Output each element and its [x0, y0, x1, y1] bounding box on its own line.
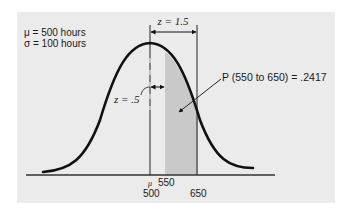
probability-label: P (550 to 650) = .2417	[222, 71, 327, 83]
normal-distribution-figure: z = 1.5 z = .5 P (550 to 650) = .2417 μ …	[0, 0, 347, 221]
sigma-parameter: σ = 100 hours	[24, 38, 86, 49]
mu-parameter: μ = 500 hours	[24, 27, 86, 38]
z-lower-label: z = .5	[113, 93, 140, 105]
tick-550: 550	[158, 177, 175, 188]
tick-500: 500	[143, 188, 160, 199]
tick-650: 650	[190, 188, 207, 199]
z-upper-label: z = 1.5	[157, 15, 189, 27]
mu-axis-symbol: μ	[147, 179, 152, 188]
